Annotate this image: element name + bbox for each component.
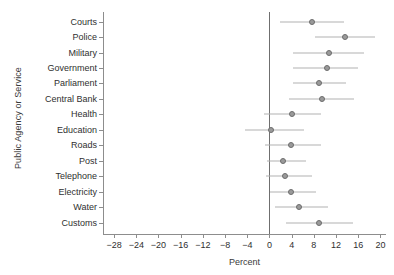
x-tick-label: −20 [151, 240, 166, 250]
data-point-telephone [282, 173, 288, 179]
x-tick-mark [158, 234, 159, 238]
y-tick-mark [99, 83, 103, 84]
y-tick-label-electricity: Electricity [58, 187, 103, 197]
data-point-parliament [316, 80, 322, 86]
x-tick-label: 0 [267, 240, 272, 250]
data-point-customs [316, 220, 322, 226]
x-tick-label: −16 [173, 240, 188, 250]
confidence-interval-education [245, 129, 305, 130]
y-tick-mark [99, 114, 103, 115]
x-tick-label: 12 [331, 240, 341, 250]
x-tick-mark [269, 234, 270, 238]
data-point-education [268, 127, 274, 133]
y-tick-mark [99, 53, 103, 54]
y-tick-label-parliament: Parliament [54, 78, 103, 88]
y-tick-mark [99, 207, 103, 208]
x-tick-mark [314, 234, 315, 238]
x-tick-mark [336, 234, 337, 238]
data-point-electricity [288, 189, 294, 195]
chart-canvas: Public Agency or Service CourtsPoliceMil… [0, 0, 394, 275]
x-tick-label: −28 [106, 240, 121, 250]
data-point-health [289, 111, 295, 117]
y-tick-label-government: Government [47, 63, 103, 73]
x-tick-mark [380, 234, 381, 238]
y-tick-label-telephone: Telephone [55, 171, 103, 181]
x-tick-mark [225, 234, 226, 238]
data-point-police [342, 34, 348, 40]
x-tick-label: −24 [129, 240, 144, 250]
x-tick-label: 20 [375, 240, 385, 250]
confidence-interval-telephone [266, 176, 312, 177]
x-tick-label: −4 [242, 240, 252, 250]
y-tick-label-customs: Customs [61, 218, 103, 228]
y-tick-mark [99, 37, 103, 38]
data-point-military [326, 50, 332, 56]
x-tick-mark [292, 234, 293, 238]
data-point-roads [288, 142, 294, 148]
y-tick-label-central-bank: Central Bank [45, 94, 103, 104]
y-tick-label-education: Education [57, 125, 103, 135]
confidence-interval-post [267, 160, 305, 161]
y-tick-mark [99, 192, 103, 193]
zero-reference-line [269, 12, 270, 234]
y-tick-mark [99, 68, 103, 69]
x-axis-line [103, 234, 386, 235]
x-tick-mark [136, 234, 137, 238]
y-tick-mark [99, 161, 103, 162]
data-point-post [280, 158, 286, 164]
data-point-water [296, 204, 302, 210]
y-tick-mark [99, 22, 103, 23]
y-tick-label-military: Military [69, 48, 104, 58]
y-tick-mark [99, 130, 103, 131]
y-tick-mark [99, 145, 103, 146]
y-tick-mark [99, 176, 103, 177]
x-tick-label: 4 [289, 240, 294, 250]
x-tick-mark [114, 234, 115, 238]
x-tick-label: −12 [195, 240, 210, 250]
data-point-courts [309, 19, 315, 25]
y-axis-title: Public Agency or Service [13, 28, 23, 208]
x-tick-mark [181, 234, 182, 238]
y-tick-mark [99, 99, 103, 100]
data-point-central-bank [319, 96, 325, 102]
x-tick-mark [247, 234, 248, 238]
x-tick-mark [203, 234, 204, 238]
y-axis-line [103, 12, 104, 234]
x-axis-title: Percent [103, 257, 386, 267]
x-tick-label: −8 [220, 240, 230, 250]
x-tick-label: 16 [353, 240, 363, 250]
y-tick-mark [99, 223, 103, 224]
x-tick-mark [358, 234, 359, 238]
plot-area: CourtsPoliceMilitaryGovernmentParliament… [103, 12, 386, 234]
data-point-government [324, 65, 330, 71]
x-tick-label: 8 [311, 240, 316, 250]
